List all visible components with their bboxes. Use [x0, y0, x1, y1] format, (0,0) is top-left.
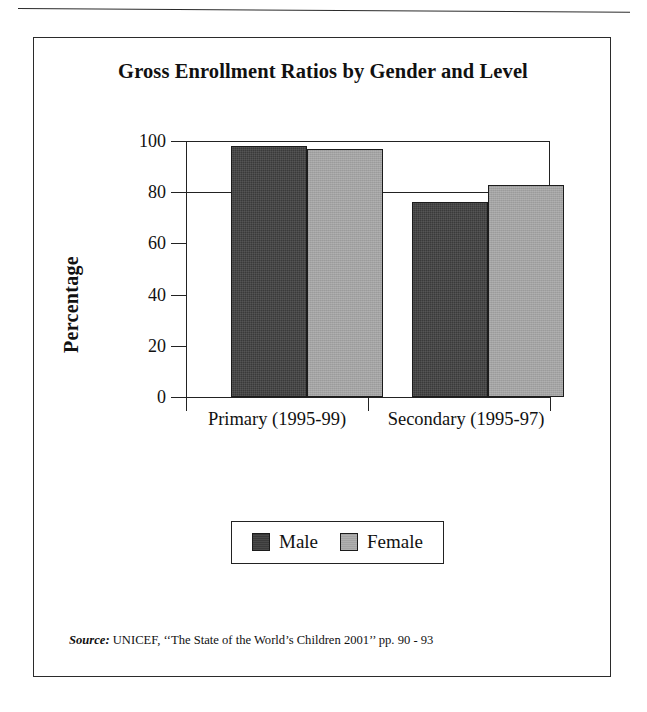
legend-label-male: Male [279, 531, 318, 553]
page-top-rule [18, 8, 630, 13]
legend-swatch-female-icon [340, 533, 358, 551]
bar-primary-male[interactable] [231, 146, 307, 397]
source-text: UNICEF, ‘‘The State of the World’s Child… [113, 633, 434, 647]
source-note: Source: UNICEF, ‘‘The State of the World… [69, 633, 433, 648]
source-prefix: Source: [69, 633, 110, 647]
legend-swatch-male-icon [252, 533, 270, 551]
y-tick-mark-40 [171, 295, 186, 296]
y-tick-label-20: 20 [148, 337, 166, 355]
chart-legend: Male Female [231, 521, 444, 564]
x-axis-tick-labels: Primary (1995-99) Secondary (1995-97) [186, 409, 550, 439]
chart-title: Gross Enrollment Ratios by Gender and Le… [86, 58, 560, 85]
bar-secondary-female[interactable] [488, 185, 564, 398]
legend-item-male[interactable]: Male [252, 531, 318, 553]
bar-primary-female[interactable] [307, 149, 383, 397]
y-tick-mark-0 [171, 397, 186, 398]
x-tick-label-secondary: Secondary (1995-97) [364, 409, 568, 430]
bar-group [186, 141, 549, 397]
y-axis-title: Percentage [60, 210, 83, 400]
y-tick-label-80: 80 [148, 183, 166, 201]
bar-secondary-male[interactable] [412, 202, 488, 397]
y-tick-label-100: 100 [139, 132, 166, 150]
x-tick-label-primary: Primary (1995-99) [178, 409, 376, 430]
figure-container: Gross Enrollment Ratios by Gender and Le… [33, 37, 611, 677]
y-tick-label-60: 60 [148, 234, 166, 252]
legend-item-female[interactable]: Female [340, 531, 423, 553]
y-axis-tick-labels: 0 20 40 60 80 100 [112, 141, 166, 397]
plot-wrapper: Percentage 0 20 40 60 80 100 [34, 141, 612, 493]
y-tick-label-0: 0 [157, 388, 166, 406]
legend-label-female: Female [367, 531, 423, 553]
y-tick-mark-80 [171, 192, 186, 193]
y-tick-mark-60 [171, 243, 186, 244]
y-tick-mark-100 [171, 141, 186, 142]
y-tick-label-40: 40 [148, 286, 166, 304]
y-tick-mark-20 [171, 346, 186, 347]
